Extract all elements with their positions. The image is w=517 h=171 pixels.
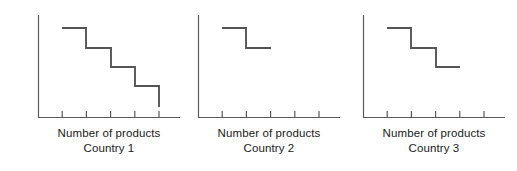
step-curve-country-2 bbox=[222, 28, 271, 48]
x-axis-label: Number of products bbox=[198, 126, 340, 141]
axes-country-3 bbox=[363, 15, 505, 118]
panel-caption: Country 1 bbox=[38, 141, 180, 156]
step-curve-country-3 bbox=[387, 28, 460, 67]
plot-area-country-1 bbox=[0, 0, 190, 125]
axes-country-2 bbox=[198, 15, 340, 118]
panel-caption: Country 2 bbox=[198, 141, 340, 156]
plot-area-country-2 bbox=[190, 0, 353, 125]
x-axis-ticks bbox=[222, 111, 319, 118]
panel-country-1: Cost per product Number of products Coun… bbox=[0, 0, 190, 171]
step-charts-figure: Cost per product Number of products Coun… bbox=[0, 0, 517, 171]
panel-caption: Country 3 bbox=[363, 141, 505, 156]
x-caption-country-2: Number of products Country 2 bbox=[198, 126, 340, 156]
x-caption-country-1: Number of products Country 1 bbox=[38, 126, 180, 156]
x-axis-label: Number of products bbox=[363, 126, 505, 141]
x-caption-country-3: Number of products Country 3 bbox=[363, 126, 505, 156]
plot-area-country-3 bbox=[353, 0, 517, 125]
step-curve-country-1 bbox=[62, 28, 159, 107]
x-axis-ticks bbox=[62, 111, 159, 118]
x-axis-ticks bbox=[387, 111, 484, 118]
panel-country-3: Number of products Country 3 bbox=[353, 0, 517, 171]
panel-country-2: Number of products Country 2 bbox=[190, 0, 353, 171]
x-axis-label: Number of products bbox=[38, 126, 180, 141]
